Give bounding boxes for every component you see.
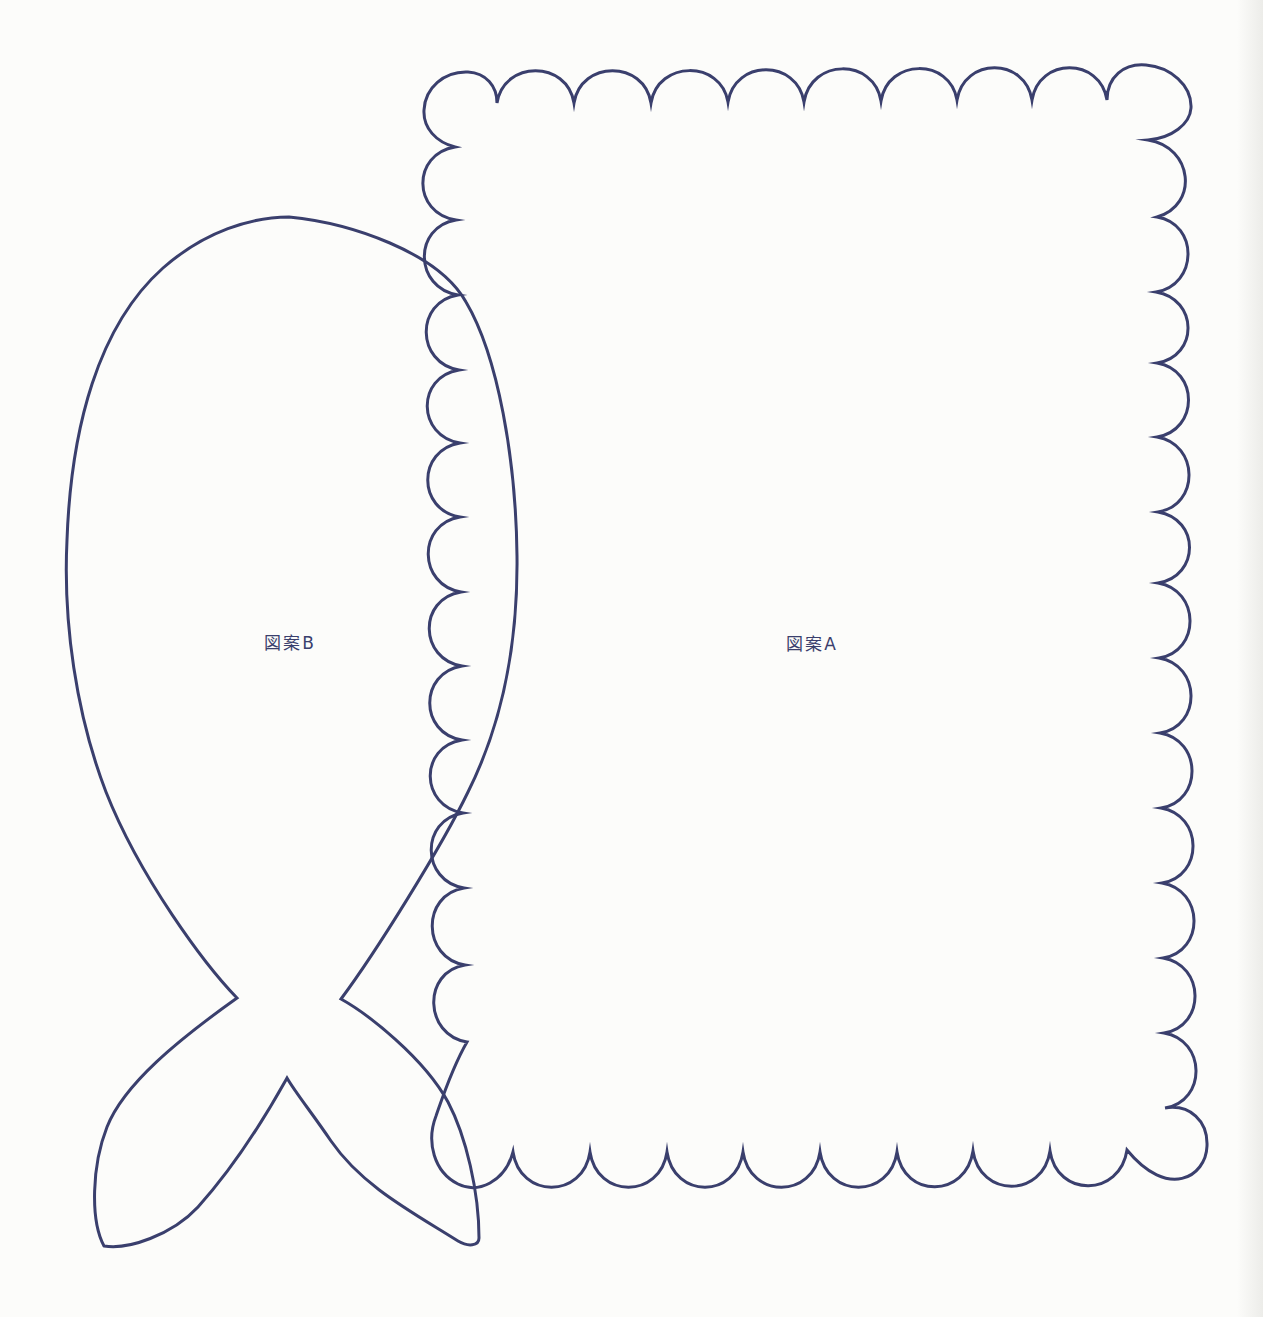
pattern-b-label: 図案B [230, 629, 350, 654]
pattern-a-label: 図案A [752, 630, 872, 655]
pattern-a-scalloped-rectangle-outline [423, 65, 1207, 1188]
pattern-drawing [0, 0, 1263, 1317]
pattern-sheet-page: 図案A 図案B [0, 0, 1263, 1317]
